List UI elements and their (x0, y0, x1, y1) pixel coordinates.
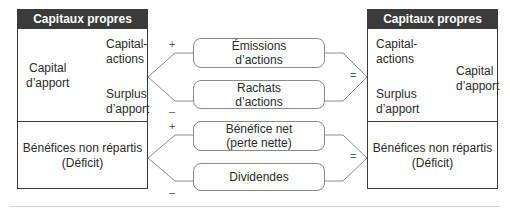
share-issuance-label: Émissions d’actions (232, 39, 287, 67)
left-box-divider (18, 121, 147, 122)
left-benefices: Bénéfices non répartis (Déficit) (17, 141, 148, 171)
right-benefices: Bénéfices non répartis (Déficit) (367, 141, 498, 171)
top-equals-sign: = (350, 69, 356, 81)
left-box-header: Capitaux propres (18, 10, 147, 29)
share-repurchase-pill: Rachats d’actions (193, 80, 325, 109)
bottom-minus-sign: – (169, 186, 175, 198)
bottom-equals-sign: = (350, 150, 356, 162)
right-box-header: Capitaux propres (368, 10, 497, 29)
top-plus-sign: + (169, 38, 175, 50)
dividends-pill: Dividendes (193, 163, 325, 191)
top-minus-sign: – (169, 105, 175, 117)
net-income-pill: Bénéfice net (perte nette) (193, 121, 325, 151)
net-income-label: Bénéfice net (perte nette) (226, 122, 293, 150)
share-repurchase-label: Rachats d’actions (235, 81, 282, 109)
bottom-plus-sign: + (169, 120, 175, 132)
right-capital-actions: Capital- actions (376, 37, 417, 67)
left-capital-actions: Capital- actions (106, 37, 147, 67)
right-box-divider (368, 121, 497, 122)
dividends-label: Dividendes (229, 170, 288, 184)
right-surplus-apport: Surplus d’apport (376, 87, 419, 117)
right-capital-apport: Capital d’apport (456, 64, 499, 94)
left-capital-apport: Capital d’apport (26, 61, 69, 91)
footer-divider (10, 206, 500, 207)
left-surplus-apport: Surplus d’apport (106, 87, 149, 117)
share-issuance-pill: Émissions d’actions (193, 38, 325, 68)
